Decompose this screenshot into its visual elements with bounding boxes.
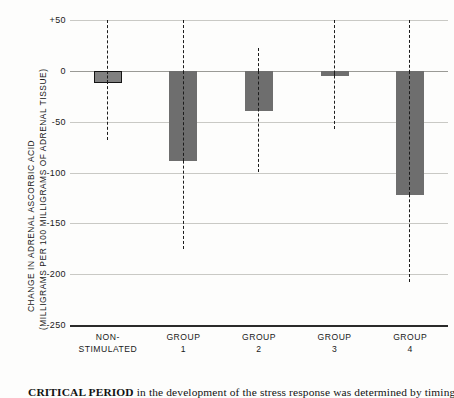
chart-figure: CHANGE IN ADRENAL ASCORBIC ACID (MILLIGR… bbox=[0, 0, 454, 398]
figure-caption: CRITICAL PERIOD in the development of th… bbox=[28, 386, 454, 398]
gridline--100 bbox=[70, 173, 448, 174]
y-tick-label--100: -100 bbox=[20, 168, 66, 178]
x-tick-label-3: GROUP2 bbox=[242, 332, 276, 355]
y-tick-label--150: -150 bbox=[20, 218, 66, 228]
x-axis-tick-labels: NON-STIMULATEDGROUP1GROUP2GROUP3GROUP4 bbox=[70, 332, 448, 366]
x-tick-label-line: 2 bbox=[242, 344, 276, 356]
gridline--250 bbox=[70, 325, 448, 327]
y-tick-label--250: -250 bbox=[20, 320, 66, 330]
x-tick-label-line: 3 bbox=[318, 344, 352, 356]
gridline-50 bbox=[70, 20, 448, 21]
error-bar-overlay bbox=[183, 71, 184, 161]
x-tick-label-line: GROUP bbox=[166, 332, 200, 344]
error-bar-overlay bbox=[107, 71, 108, 83]
y-tick-label-50: +50 bbox=[20, 15, 66, 25]
error-bar-overlay bbox=[409, 71, 410, 195]
caption-lead: CRITICAL PERIOD bbox=[28, 386, 134, 398]
x-tick-label-line: GROUP bbox=[318, 332, 352, 344]
gridline--150 bbox=[70, 223, 448, 224]
y-axis-tick-labels: +500-50-100-150-200-250 bbox=[14, 0, 66, 340]
x-tick-label-5: GROUP4 bbox=[393, 332, 427, 355]
caption-rest: in the development of the stress respons… bbox=[134, 386, 454, 398]
gridline--200 bbox=[70, 274, 448, 275]
y-tick-label--200: -200 bbox=[20, 269, 66, 279]
error-bar-overlay bbox=[334, 71, 335, 76]
x-tick-label-line: STIMULATED bbox=[78, 344, 137, 356]
x-tick-label-line: NON- bbox=[78, 332, 137, 344]
y-tick-label-0: 0 bbox=[20, 66, 66, 76]
x-tick-label-line: 4 bbox=[393, 344, 427, 356]
x-tick-label-line: GROUP bbox=[242, 332, 276, 344]
x-tick-label-2: GROUP1 bbox=[166, 332, 200, 355]
x-tick-label-line: 1 bbox=[166, 344, 200, 356]
y-tick-label--50: -50 bbox=[20, 117, 66, 127]
x-tick-label-line: GROUP bbox=[393, 332, 427, 344]
error-bar-overlay bbox=[258, 71, 259, 112]
plot-area bbox=[70, 20, 448, 325]
x-tick-label-1: NON-STIMULATED bbox=[78, 332, 137, 355]
x-tick-label-4: GROUP3 bbox=[318, 332, 352, 355]
